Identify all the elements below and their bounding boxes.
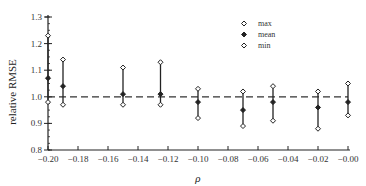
min-marker-icon	[158, 102, 163, 107]
min-marker-icon	[241, 124, 246, 129]
y-tick-label: 1.2	[31, 39, 42, 49]
x-tick-label: −0.06	[248, 154, 269, 164]
max-marker-icon	[121, 65, 126, 70]
max-marker-icon	[346, 81, 351, 86]
mean-marker-icon	[158, 92, 163, 97]
min-marker-icon	[121, 102, 126, 107]
min-marker-icon	[316, 126, 321, 131]
mean-marker-icon	[316, 105, 321, 110]
legend-min-marker-icon	[242, 43, 247, 48]
max-marker-icon	[241, 89, 246, 94]
legend-mean-label: mean	[258, 30, 275, 39]
x-tick-label: −0.20	[38, 154, 59, 164]
max-marker-icon	[316, 89, 321, 94]
x-tick-label: −0.04	[278, 154, 299, 164]
mean-marker-icon	[241, 108, 246, 113]
min-marker-icon	[196, 116, 201, 121]
legend-mean-marker-icon	[242, 32, 247, 37]
error-range-chart: 0.80.91.01.11.21.3−0.20−0.18−0.16−0.14−0…	[0, 0, 366, 186]
mean-marker-icon	[346, 100, 351, 105]
x-tick-label: −0.14	[128, 154, 149, 164]
y-tick-label: 0.9	[31, 118, 43, 128]
x-tick-label: −0.18	[68, 154, 89, 164]
x-tick-label: −0.16	[98, 154, 119, 164]
legend: max mean min	[242, 19, 276, 50]
min-marker-icon	[346, 113, 351, 118]
x-tick-label: −0.02	[308, 154, 329, 164]
mean-marker-icon	[271, 100, 276, 105]
min-marker-icon	[61, 102, 66, 107]
max-marker-icon	[158, 60, 163, 65]
x-axis-label: ρ	[194, 172, 200, 184]
mean-marker-icon	[196, 100, 201, 105]
x-tick-label: −0.08	[218, 154, 239, 164]
x-tick-label: −0.12	[158, 154, 179, 164]
x-tick-label: −0.00	[338, 154, 359, 164]
legend-min-label: min	[258, 41, 270, 50]
y-axis-label: relative RMSE	[6, 59, 18, 125]
max-marker-icon	[46, 33, 51, 38]
min-marker-icon	[46, 100, 51, 105]
min-marker-icon	[271, 118, 276, 123]
mean-marker-icon	[121, 92, 126, 97]
y-tick-label: 1.3	[31, 12, 43, 22]
max-marker-icon	[61, 57, 66, 62]
axes: 0.80.91.01.11.21.3−0.20−0.18−0.16−0.14−0…	[31, 12, 359, 164]
max-marker-icon	[196, 86, 201, 91]
legend-max-marker-icon	[242, 21, 247, 26]
x-tick-label: −0.10	[188, 154, 209, 164]
mean-marker-icon	[61, 84, 66, 89]
y-tick-label: 1.0	[31, 92, 43, 102]
mean-marker-icon	[46, 76, 51, 81]
max-marker-icon	[271, 84, 276, 89]
data-points	[46, 33, 351, 131]
legend-max-label: max	[258, 19, 272, 28]
y-tick-label: 1.1	[31, 65, 42, 75]
